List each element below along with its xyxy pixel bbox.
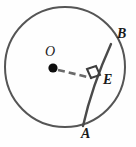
geometry-canvas (0, 0, 136, 147)
geometry-figure: B E A O (0, 0, 136, 147)
circle-outline (5, 7, 125, 127)
center-label-o: O (45, 45, 55, 59)
center-point-dot (48, 63, 57, 72)
vertex-label-e: E (103, 73, 112, 87)
vertex-label-a: A (81, 127, 90, 141)
vertex-label-b: B (117, 27, 126, 41)
right-angle-square (87, 66, 100, 78)
